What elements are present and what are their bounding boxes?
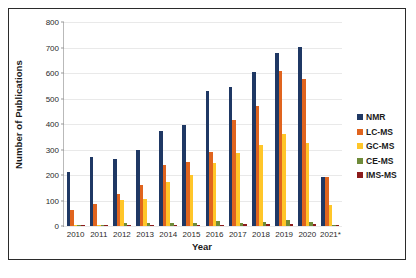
x-axis-tick-label: 2021* <box>320 230 341 239</box>
bar-ims-ms-2012 <box>127 225 131 226</box>
legend-item-ce-ms: CE-MS <box>357 156 397 166</box>
x-axis-tick-label: 2014 <box>159 230 177 239</box>
x-axis-tick-label: 2011 <box>90 230 107 239</box>
x-axis-tick-label: 2020 <box>298 230 316 239</box>
legend-item-gc-ms: GC-MS <box>357 141 397 151</box>
legend-item-nmr: NMR <box>357 112 397 122</box>
y-axis-title: Number of Publications <box>10 9 26 219</box>
legend-swatch-icon <box>357 129 363 135</box>
bar-gc-ms-2019 <box>282 134 286 226</box>
x-axis-tick-label: 2015 <box>183 230 201 239</box>
legend-item-ims-ms: IMS-MS <box>357 170 397 180</box>
legend-label: IMS-MS <box>366 170 397 180</box>
bar-gc-ms-2015 <box>190 175 194 226</box>
bar-gc-ms-2014 <box>166 182 170 226</box>
legend-swatch-icon <box>357 143 363 149</box>
bar-ims-ms-2020 <box>313 224 317 226</box>
bar-ims-ms-2016 <box>220 225 224 226</box>
bar-ims-ms-2019 <box>290 224 294 226</box>
bar-group: 2020 <box>296 22 319 226</box>
y-axis-tick-label: 800 <box>46 18 59 27</box>
bar-group: 2010 <box>64 22 87 226</box>
legend-swatch-icon <box>357 172 363 178</box>
figure-caption <box>10 266 400 274</box>
bar-ims-ms-2010 <box>81 225 85 226</box>
bar-lc-ms-2010 <box>70 210 74 226</box>
bar-gc-ms-2016 <box>213 163 217 226</box>
bar-group: 2019 <box>273 22 296 226</box>
gridline <box>64 226 342 227</box>
bar-groups: 2010201120122013201420152016201720182019… <box>64 22 342 226</box>
x-axis-tick-label: 2017 <box>229 230 247 239</box>
y-axis-tick-label: 600 <box>46 69 59 78</box>
bar-gc-ms-2021 <box>329 205 333 226</box>
bar-group: 2011 <box>87 22 110 226</box>
y-axis-tick-label: 0 <box>55 222 59 231</box>
legend-swatch-icon <box>357 114 363 120</box>
bar-group: 2018 <box>249 22 272 226</box>
x-axis-tick-label: 2016 <box>206 230 224 239</box>
bar-ims-ms-2015 <box>197 225 201 226</box>
bar-ims-ms-2021 <box>336 225 340 226</box>
y-axis-tick-label: 200 <box>46 171 59 180</box>
y-axis-tick-label: 400 <box>46 120 59 129</box>
x-axis-tick-label: 2012 <box>113 230 131 239</box>
bar-lc-ms-2011 <box>93 204 97 226</box>
bar-group: 2017 <box>226 22 249 226</box>
bar-group: 2014 <box>157 22 180 226</box>
bar-ims-ms-2011 <box>104 225 108 226</box>
x-axis-tick-label: 2018 <box>252 230 270 239</box>
bar-ims-ms-2018 <box>266 224 270 226</box>
bar-group: 2012 <box>110 22 133 226</box>
chart-figure: Number of Publications 01002003004005006… <box>8 8 406 260</box>
bar-ims-ms-2017 <box>243 224 247 226</box>
bar-group: 2013 <box>134 22 157 226</box>
legend: NMRLC-MSGC-MSCE-MSIMS-MS <box>357 112 397 180</box>
bar-group: 2016 <box>203 22 226 226</box>
legend-item-lc-ms: LC-MS <box>357 127 397 137</box>
x-axis-tick-label: 2019 <box>275 230 293 239</box>
bar-ims-ms-2013 <box>150 225 154 226</box>
legend-swatch-icon <box>357 158 363 164</box>
y-axis-tick-label: 100 <box>46 196 59 205</box>
y-axis-title-text: Number of Publications <box>13 60 24 169</box>
x-axis-title: Year <box>63 241 341 252</box>
x-axis-tick-label: 2010 <box>67 230 85 239</box>
legend-label: NMR <box>366 112 385 122</box>
legend-label: GC-MS <box>366 141 394 151</box>
y-axis-tick-label: 300 <box>46 145 59 154</box>
x-axis-tick-label: 2013 <box>136 230 154 239</box>
bar-group: 2021* <box>319 22 342 226</box>
y-axis-tick-label: 700 <box>46 43 59 52</box>
legend-label: CE-MS <box>366 156 393 166</box>
bar-group: 2015 <box>180 22 203 226</box>
bar-ims-ms-2014 <box>174 225 178 226</box>
bar-gc-ms-2020 <box>306 143 310 226</box>
bar-gc-ms-2018 <box>259 145 263 226</box>
y-axis-tick-label: 500 <box>46 94 59 103</box>
bar-gc-ms-2017 <box>236 153 240 226</box>
legend-label: LC-MS <box>366 127 393 137</box>
plot-area: 0100200300400500600700800 20102011201220… <box>63 22 342 227</box>
